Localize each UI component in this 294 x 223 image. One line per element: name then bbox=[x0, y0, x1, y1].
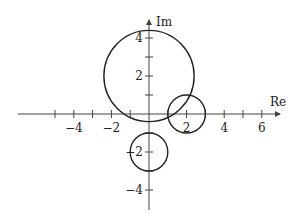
x-tick-label: 6 bbox=[258, 121, 266, 135]
imaginary-axis-label: Im bbox=[156, 15, 173, 29]
y-tick-label: 2 bbox=[135, 69, 143, 83]
x-tick-label: 4 bbox=[220, 121, 228, 135]
x-tick-labels: −4−2246 bbox=[65, 121, 266, 135]
y-tick-label: 4 bbox=[135, 31, 143, 45]
y-tick-label: −4 bbox=[125, 183, 143, 197]
x-tick-label: −4 bbox=[65, 121, 83, 135]
complex-plane-diagram: −4−2246 42−2−4 Re Im bbox=[0, 0, 294, 223]
x-tick-label: −2 bbox=[103, 121, 121, 135]
circles bbox=[104, 30, 206, 171]
real-axis-label: Re bbox=[270, 95, 286, 109]
y-tick-label: −2 bbox=[125, 145, 143, 159]
